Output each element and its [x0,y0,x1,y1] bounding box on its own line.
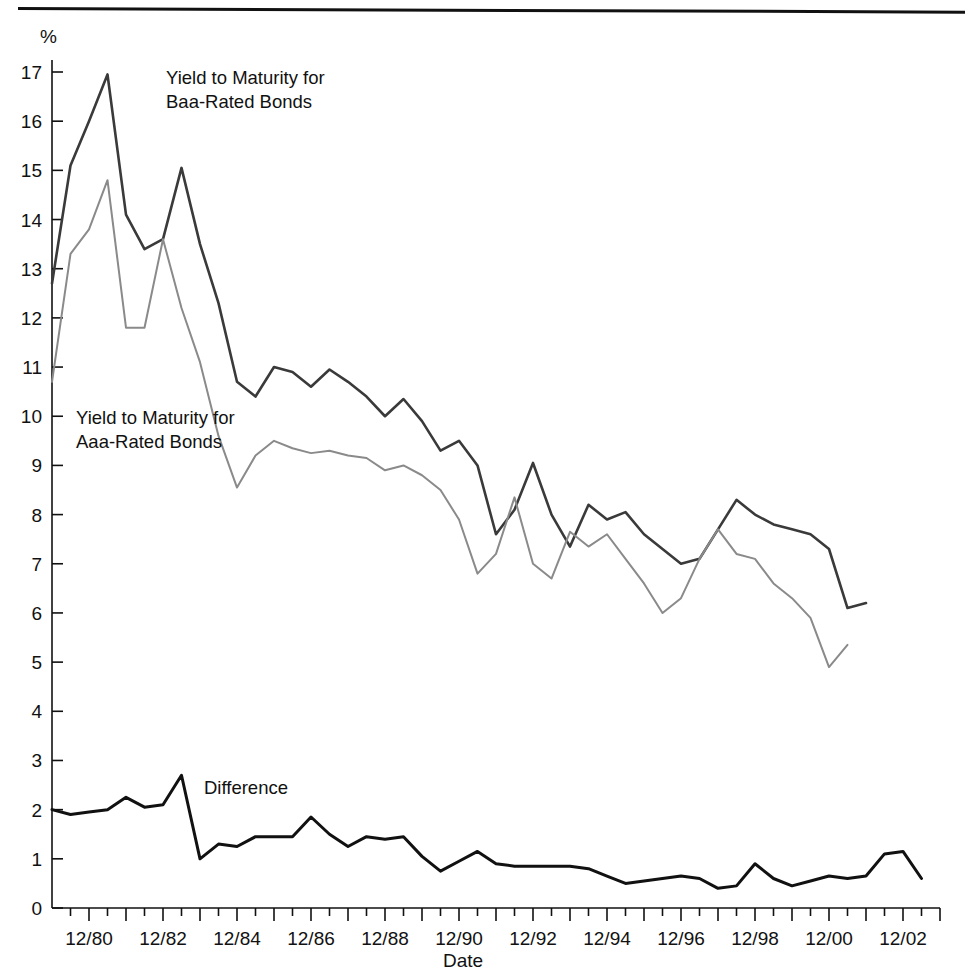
y-axis-tick-label: 7 [31,554,42,575]
x-axis-tick-label: 12/02 [879,928,927,949]
y-axis: 01234567891011121314151617 [21,60,63,919]
y-axis-tick-label: 16 [21,111,42,132]
y-axis-tick-label: 17 [21,62,42,83]
data-series-group [52,74,922,888]
annotation-aaa: Yield to Maturity for Aaa-Rated Bonds [76,406,235,454]
chart-plot-area: 01234567891011121314151617 12/8012/8212/… [0,0,965,980]
x-axis-tick-label: 12/86 [287,928,335,949]
x-axis-tick-label: 12/98 [731,928,779,949]
x-axis: 12/8012/8212/8412/8612/8812/9012/9212/94… [52,908,940,949]
x-axis-tick-label: 12/80 [65,928,113,949]
bond-yield-figure: % Yield to Maturity for Baa-Rated Bonds … [0,0,965,980]
y-axis-tick-label: 11 [22,357,42,378]
y-axis-tick-label: 10 [21,406,42,427]
x-axis-tick-label: 12/88 [361,928,409,949]
y-axis-tick-label: 15 [21,160,42,181]
y-axis-tick-label: 9 [31,455,42,476]
y-axis-tick-label: 12 [21,308,42,329]
x-axis-tick-label: 12/94 [583,928,631,949]
series-line-0 [52,74,866,608]
y-axis-tick-label: 0 [31,898,42,919]
y-axis-unit-label: % [40,26,57,48]
y-axis-tick-label: 5 [31,652,42,673]
y-axis-tick-label: 8 [31,505,42,526]
y-axis-tick-label: 2 [31,800,42,821]
x-axis-tick-label: 12/96 [657,928,705,949]
annotation-baa: Yield to Maturity for Baa-Rated Bonds [166,66,325,114]
y-axis-tick-label: 1 [31,849,42,870]
x-axis-tick-label: 12/00 [805,928,853,949]
annotation-difference: Difference [204,776,288,800]
y-axis-tick-label: 4 [31,701,42,722]
series-line-2 [52,775,922,888]
y-axis-tick-label: 13 [21,259,42,280]
x-axis-tick-label: 12/84 [213,928,261,949]
y-axis-tick-label: 14 [21,210,43,231]
x-axis-tick-label: 12/92 [509,928,557,949]
x-axis-title: Date [443,950,483,972]
y-axis-tick-label: 6 [31,603,42,624]
y-axis-tick-label: 3 [31,750,42,771]
x-axis-tick-label: 12/82 [139,928,187,949]
x-axis-tick-label: 12/90 [435,928,483,949]
